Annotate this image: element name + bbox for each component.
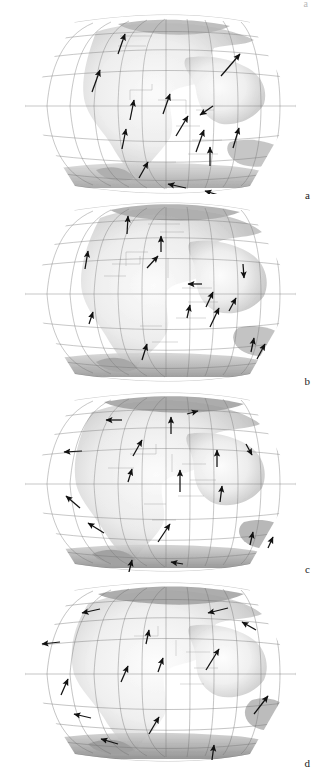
map-d-fill <box>0 582 321 764</box>
map-b <box>0 202 321 382</box>
map-c <box>0 392 321 572</box>
map-panel-a: a <box>0 14 321 194</box>
map-d <box>0 582 321 764</box>
map-a-svg <box>0 14 321 194</box>
map-panel-d: d <box>0 582 321 764</box>
map-panel-c: c <box>0 392 321 572</box>
map-b-fill <box>0 202 321 382</box>
map-c-svg <box>0 392 321 572</box>
panel-label-a: a <box>305 190 310 201</box>
map-panel-b: b <box>0 202 321 382</box>
map-d-svg <box>0 582 321 764</box>
figure-container: a <box>0 0 321 769</box>
map-a-fill <box>0 14 321 194</box>
map-b-svg <box>0 202 321 382</box>
map-a <box>0 14 321 194</box>
panel-label-b: b <box>305 376 311 387</box>
panel-label-c: c <box>305 564 310 575</box>
map-c-fill <box>0 392 321 572</box>
panel-label-d: d <box>305 758 311 769</box>
corner-page-mark: a <box>304 0 308 9</box>
